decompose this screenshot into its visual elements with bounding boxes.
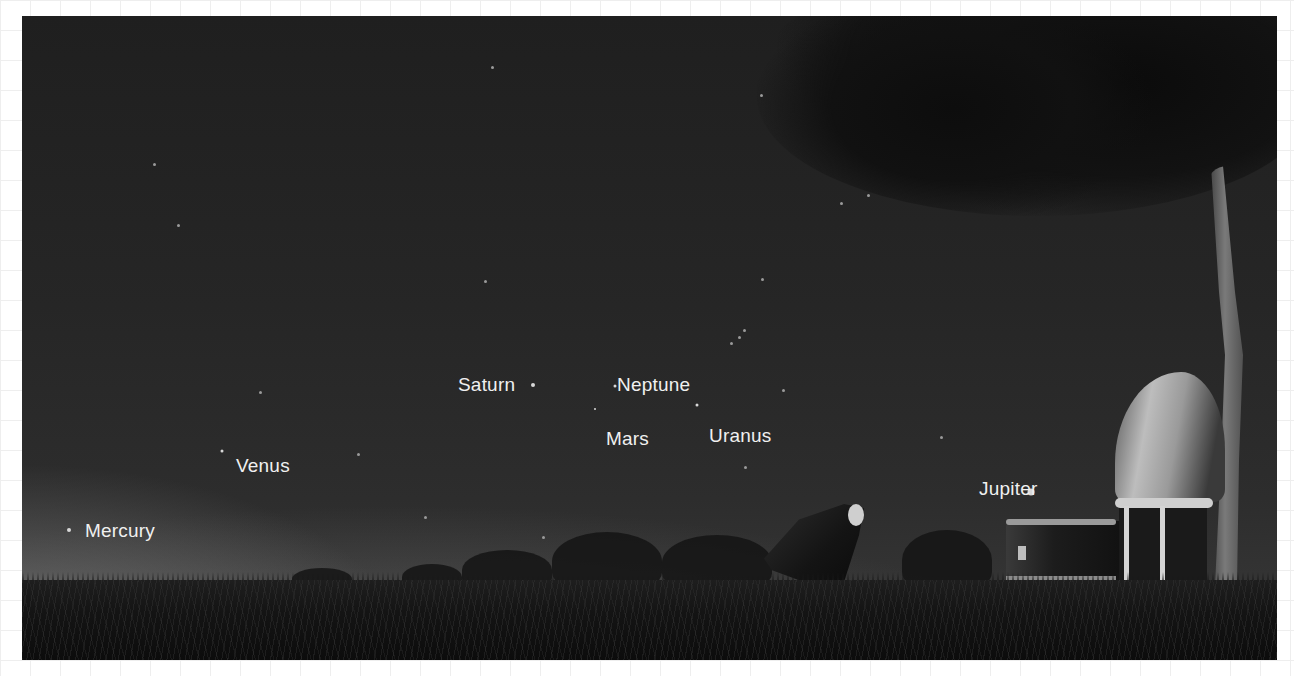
planet-label-neptune: Neptune (617, 375, 690, 394)
star-icon (744, 466, 747, 469)
star-icon (738, 336, 741, 339)
foreground-grass (22, 580, 1277, 660)
star-icon (424, 516, 427, 519)
star-icon (484, 280, 487, 283)
planet-label-jupiter: Jupiter (979, 479, 1037, 498)
planet-label-mercury: Mercury (85, 521, 155, 540)
observatory-dome (1115, 372, 1225, 502)
star-icon (730, 342, 733, 345)
tree-canopy (757, 16, 1277, 216)
planet-dot-mercury (67, 528, 71, 532)
night-sky-scene: Mercury Venus Saturn Neptune Mars Uranus… (22, 16, 1277, 660)
star-icon (940, 436, 943, 439)
star-icon (743, 329, 746, 332)
star-icon (867, 194, 870, 197)
planet-label-mars: Mars (606, 429, 649, 448)
star-icon (761, 278, 764, 281)
planet-dot-saturn (531, 383, 535, 387)
star-icon (259, 391, 262, 394)
star-icon (491, 66, 494, 69)
radio-telescope-rim (848, 504, 864, 526)
star-icon (840, 202, 843, 205)
planet-label-saturn: Saturn (458, 375, 515, 394)
star-icon (357, 453, 360, 456)
star-icon (782, 389, 785, 392)
planet-dot-venus (221, 450, 224, 453)
building-roof (1006, 519, 1116, 525)
star-icon (177, 224, 180, 227)
planet-label-venus: Venus (236, 456, 290, 475)
planet-dot-mars (594, 408, 596, 410)
planet-label-uranus: Uranus (709, 426, 771, 445)
building-window (1018, 546, 1026, 560)
planet-dot-uranus (696, 404, 699, 407)
star-icon (153, 163, 156, 166)
star-icon (760, 94, 763, 97)
